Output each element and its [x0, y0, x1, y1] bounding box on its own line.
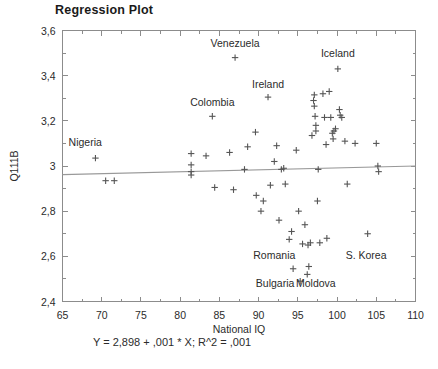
tick-labels-group: 657075808590951001051103,63,43,232,82,62…	[41, 25, 424, 321]
data-point	[111, 177, 117, 183]
data-point	[375, 168, 381, 174]
point-label-colombia: Colombia	[190, 96, 235, 108]
point-label-romania: Romania	[253, 249, 295, 261]
data-point	[324, 235, 330, 241]
data-point	[309, 132, 315, 138]
data-points-group	[92, 54, 382, 284]
y-tick-label: 2,6	[41, 250, 56, 262]
data-point	[232, 54, 238, 60]
y-tick-label: 2,4	[41, 296, 56, 308]
data-point	[335, 66, 341, 72]
data-point	[288, 228, 294, 234]
data-point	[273, 142, 279, 148]
data-point	[230, 187, 236, 193]
y-tick-label: 3,4	[41, 70, 56, 82]
data-point	[342, 138, 348, 144]
data-point	[312, 113, 318, 119]
data-point	[286, 236, 292, 242]
data-point	[241, 166, 247, 172]
data-point	[188, 162, 194, 168]
y-tick-label: 3,6	[41, 25, 56, 37]
data-point	[344, 181, 350, 187]
data-point	[295, 208, 301, 214]
x-tick-label: 90	[253, 309, 265, 321]
x-tick-label: 70	[96, 309, 108, 321]
point-label-ireland: Ireland	[252, 78, 284, 90]
x-tick-label: 80	[174, 309, 186, 321]
data-point	[313, 128, 319, 134]
point-label-bulgaria: Bulgaria	[256, 277, 295, 289]
regression-equation: Y = 2,898 + ,001 * X; R^2 = ,001	[93, 336, 251, 348]
data-point	[299, 241, 305, 247]
regression-plot-figure: Regression Plot VenezuelaIcelandColombia…	[0, 0, 438, 369]
data-point	[373, 140, 379, 146]
y-tick-label: 3	[50, 160, 56, 172]
point-annotations-group: VenezuelaIcelandColombiaIrelandNigeriaRo…	[69, 37, 387, 290]
point-label-nigeria: Nigeria	[69, 136, 102, 148]
data-point	[320, 91, 326, 97]
y-axis-title: Q111B	[8, 150, 20, 181]
data-point	[92, 155, 98, 161]
scatter-plot-canvas: VenezuelaIcelandColombiaIrelandNigeriaRo…	[0, 0, 438, 369]
data-point	[311, 103, 317, 109]
data-point	[290, 266, 296, 272]
point-label-s-korea: S. Korea	[346, 249, 387, 261]
y-tick-label: 3,2	[41, 115, 56, 127]
data-point	[328, 114, 334, 120]
data-point	[330, 136, 336, 142]
data-point	[226, 149, 232, 155]
data-point	[315, 166, 321, 172]
data-point	[188, 172, 194, 178]
x-tick-label: 110	[407, 309, 424, 321]
regression-line	[63, 166, 416, 175]
data-point	[375, 163, 381, 169]
data-point	[267, 182, 273, 188]
data-point	[302, 222, 308, 228]
x-tick-label: 95	[292, 309, 304, 321]
data-point	[102, 177, 108, 183]
data-point	[336, 106, 342, 112]
point-label-moldova: Moldova	[296, 277, 336, 289]
data-point	[306, 263, 312, 269]
data-point	[209, 113, 215, 119]
data-point	[276, 217, 282, 223]
data-point	[293, 147, 299, 153]
data-point	[253, 192, 259, 198]
data-point	[252, 129, 258, 135]
data-point	[282, 181, 288, 187]
data-point	[188, 150, 194, 156]
x-tick-label: 85	[214, 309, 226, 321]
data-point	[364, 231, 370, 237]
data-point	[258, 208, 264, 214]
data-point	[265, 94, 271, 100]
x-tick-label: 75	[135, 309, 147, 321]
y-tick-label: 2,8	[41, 205, 56, 217]
data-point	[310, 97, 316, 103]
x-tick-label: 65	[57, 309, 69, 321]
x-axis-title: National IQ	[213, 323, 266, 335]
x-tick-label: 105	[368, 309, 386, 321]
data-point	[326, 88, 332, 94]
data-point	[244, 144, 250, 150]
data-point	[313, 122, 319, 128]
point-label-iceland: Iceland	[321, 47, 355, 59]
data-point	[271, 158, 277, 164]
data-point	[311, 92, 317, 98]
point-label-venezuela: Venezuela	[211, 37, 260, 49]
data-point	[321, 114, 327, 120]
data-point	[352, 140, 358, 146]
data-point	[203, 153, 209, 159]
data-point	[211, 184, 217, 190]
x-tick-label: 100	[328, 309, 346, 321]
data-point	[314, 198, 320, 204]
data-point	[260, 198, 266, 204]
data-point	[323, 141, 329, 147]
data-point	[317, 240, 323, 246]
